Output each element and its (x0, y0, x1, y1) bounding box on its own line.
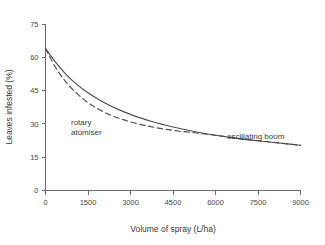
y-tick-label: 75 (30, 20, 38, 29)
rotary-atomiser-label-line2: atomiser (71, 128, 102, 137)
y-axis: 01530456075 Leaves infested (%) (4, 20, 46, 196)
rotary-atomiser-label-line1: rotary (71, 118, 91, 127)
y-axis-title: Leaves infested (%) (4, 69, 14, 144)
series-annotation-oscillating-boom: oscillating boom (227, 132, 285, 141)
y-tick-label: 0 (34, 186, 38, 195)
x-axis: 0150030004500600075009000 Volume of spra… (43, 191, 308, 235)
x-tick-label: 6000 (207, 198, 224, 207)
x-axis-ticks: 0150030004500600075009000 (43, 191, 308, 207)
y-tick-label: 15 (30, 153, 38, 162)
x-axis-title: Volume of spray (L/ha) (130, 224, 216, 234)
x-tick-label: 1500 (80, 198, 97, 207)
x-tick-label: 7500 (250, 198, 267, 207)
y-tick-label: 30 (30, 120, 38, 129)
y-tick-label: 60 (30, 53, 38, 62)
x-tick-label: 0 (43, 198, 47, 207)
series-annotation-rotary-atomiser: rotary atomiser (71, 118, 102, 137)
x-tick-label: 4500 (165, 198, 182, 207)
x-tick-label: 9000 (292, 198, 309, 207)
x-tick-label: 3000 (122, 198, 139, 207)
y-axis-ticks: 01530456075 (30, 20, 45, 196)
chart-container: 01530456075 Leaves infested (%) 01500300… (0, 0, 325, 245)
line-chart-svg: 01530456075 Leaves infested (%) 01500300… (0, 0, 325, 245)
oscillating-boom-label: oscillating boom (227, 132, 285, 141)
y-tick-label: 45 (30, 86, 38, 95)
